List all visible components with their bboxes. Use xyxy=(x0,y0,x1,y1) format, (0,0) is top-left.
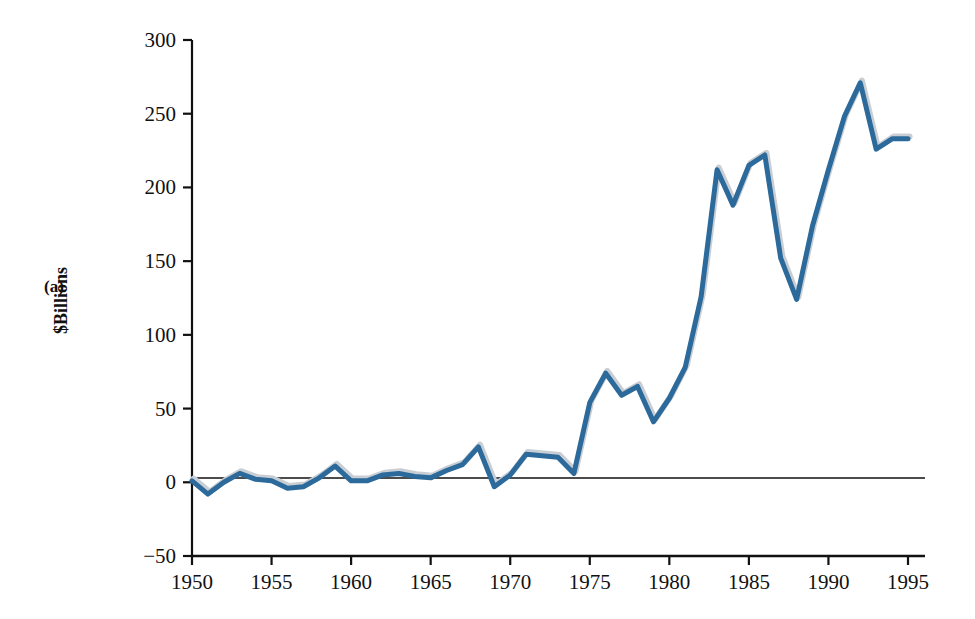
x-tick-label: 1960 xyxy=(330,570,372,595)
y-tick-label: 100 xyxy=(110,322,176,347)
line-chart-plot xyxy=(0,0,975,619)
y-tick-label: 50 xyxy=(110,396,176,421)
x-tick-label: 1950 xyxy=(171,570,213,595)
series-line xyxy=(192,83,908,494)
series-line-shadow xyxy=(194,81,910,492)
y-tick-label: 300 xyxy=(110,28,176,53)
x-tick-label: 1990 xyxy=(807,570,849,595)
y-tick-label: 200 xyxy=(110,175,176,200)
y-tick-label: 150 xyxy=(110,249,176,274)
x-tick-label: 1980 xyxy=(648,570,690,595)
axis-lines xyxy=(192,40,925,556)
x-tick-label: 1985 xyxy=(728,570,770,595)
x-tick-label: 1970 xyxy=(489,570,531,595)
y-tick-label: 0 xyxy=(110,470,176,495)
y-axis-title: $Billions xyxy=(51,221,72,381)
x-tick-label: 1995 xyxy=(887,570,929,595)
y-tick-label: −50 xyxy=(110,544,176,569)
x-tick-label: 1975 xyxy=(569,570,611,595)
x-tick-label: 1965 xyxy=(410,570,452,595)
figure-panel: (a) $Billions −50050100150200250300 1950… xyxy=(0,0,975,619)
x-axis-ticks xyxy=(192,556,908,565)
x-tick-label: 1955 xyxy=(251,570,293,595)
y-tick-label: 250 xyxy=(110,101,176,126)
